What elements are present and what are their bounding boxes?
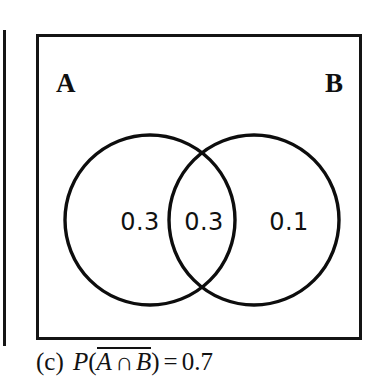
venn-figure: A B 0.3 0.3 0.1 (c) P(A∩B)=0.7	[0, 0, 386, 385]
caption-open-paren: (	[88, 348, 96, 375]
caption-close-paren: )	[151, 348, 159, 375]
caption-index: (c)	[36, 348, 64, 375]
caption-intersection-operator: ∩	[112, 348, 136, 375]
caption-set-a: A	[97, 348, 112, 375]
region-value-intersection: 0.3	[184, 210, 224, 234]
caption-result-value: 0.7	[178, 348, 213, 375]
caption-complement-group: A∩B	[97, 348, 152, 374]
region-value-b-only: 0.1	[269, 210, 309, 234]
figure-caption: (c) P(A∩B)=0.7	[36, 348, 213, 374]
adjacent-figure-edge-rule	[3, 30, 6, 346]
universal-set-rectangle	[36, 34, 362, 340]
caption-set-b: B	[136, 348, 151, 375]
region-value-a-only: 0.3	[120, 210, 160, 234]
set-label-b: B	[325, 70, 343, 97]
set-label-a: A	[56, 70, 76, 97]
caption-equals-sign: =	[160, 348, 178, 375]
caption-probability-symbol: P	[70, 348, 88, 375]
